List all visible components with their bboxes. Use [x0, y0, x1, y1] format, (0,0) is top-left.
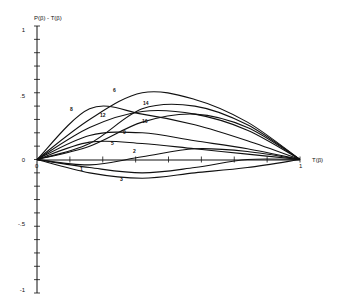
curve-label-14: 14: [143, 100, 149, 106]
y-tick-minus-1: -1: [5, 287, 25, 293]
x-end-label: 1: [299, 163, 302, 169]
curve-label-2: 2: [133, 148, 136, 154]
curve-label-1: 1: [80, 166, 83, 172]
y-tick-1: 1: [5, 27, 25, 33]
curve-label-5: 5: [111, 140, 114, 146]
curve-label-16: 16: [142, 118, 148, 124]
curve-label-12: 12: [100, 112, 106, 118]
y-tick-0: 0: [5, 157, 25, 163]
curve-label-3: 3: [120, 176, 123, 182]
curve-6: [37, 92, 300, 160]
chart-plot-area: [0, 0, 342, 306]
y-tick-0.5: .5: [5, 93, 25, 99]
x-origin-label: 0: [35, 163, 38, 169]
curve-label-9: 9: [123, 129, 126, 135]
x-axis-label: T(β): [312, 157, 323, 163]
curves: [37, 92, 300, 179]
y-tick-minus-0.5: -.5: [5, 221, 25, 227]
y-axis-label: P(β) - T(β): [34, 15, 62, 21]
curve-label-6: 6: [113, 87, 116, 93]
curve-label-8: 8: [70, 106, 73, 112]
